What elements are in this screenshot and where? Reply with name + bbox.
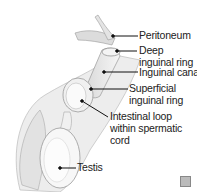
label-peritoneum: Peritoneum — [139, 30, 191, 42]
label-testis: Testis — [77, 162, 103, 174]
label-superficial-ring-line1: Superficial — [129, 83, 176, 95]
publisher-logo-icon — [180, 176, 191, 187]
label-intestinal-loop-line3: cord — [110, 135, 130, 147]
label-deep-ring-line1: Deep — [139, 45, 163, 57]
label-intestinal-loop-line1: Intestinal loop — [110, 111, 172, 123]
label-superficial-ring-line2: inguinal ring — [129, 95, 183, 107]
label-intestinal-loop-line2: within spermatic — [110, 123, 182, 135]
label-inguinal-canal: Inguinal canal — [139, 67, 197, 79]
